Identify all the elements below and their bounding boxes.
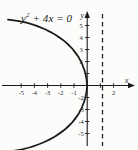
x-axis-label: x xyxy=(125,76,128,85)
parabola-upper-branch xyxy=(8,20,87,86)
x-tick-label--3: -3 xyxy=(42,89,54,96)
y-tick-label--4: -4 xyxy=(77,118,86,125)
y-tick-label-5: 5 xyxy=(78,22,84,29)
y-axis-label: y xyxy=(81,11,84,20)
x-tick-label-2: 2 xyxy=(109,89,119,96)
equation-label: y2 + 4x = 0 xyxy=(21,11,72,24)
equation-rest: + 4x = 0 xyxy=(30,12,73,24)
y-tick-label-2: 2 xyxy=(78,58,84,65)
y-tick-label-4: 4 xyxy=(78,34,84,41)
parabola-figure: y2 + 4x = 0 -5 -4 -3 -2 -1 2 5 4 3 2 -2 … xyxy=(0,0,138,150)
x-tick-label--4: -4 xyxy=(28,89,40,96)
y-tick-label--5: -5 xyxy=(77,130,86,137)
y-tick-label--2: -2 xyxy=(77,94,86,101)
x-axis-arrowhead xyxy=(128,83,135,89)
y-tick-label--3: -3 xyxy=(77,106,86,113)
y-axis-arrowhead xyxy=(85,11,90,18)
x-tick-label--5: -5 xyxy=(15,89,27,96)
x-tick-label--2: -2 xyxy=(55,89,67,96)
y-tick-label-3: 3 xyxy=(78,46,84,53)
